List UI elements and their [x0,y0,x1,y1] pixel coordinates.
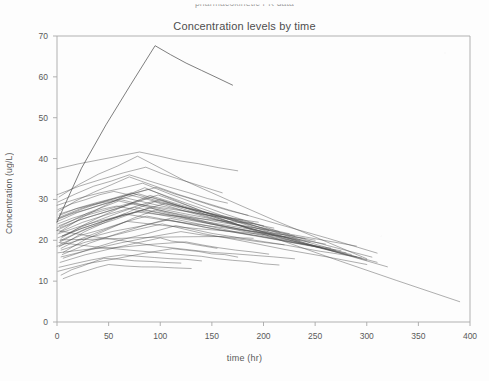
svg-text:0: 0 [55,331,60,341]
svg-text:150: 150 [205,331,219,341]
svg-text:20: 20 [39,235,49,245]
series-lines [57,46,460,302]
svg-text:250: 250 [308,331,322,341]
series-line [58,175,227,203]
svg-text:50: 50 [104,331,114,341]
svg-text:60: 60 [39,72,49,82]
svg-text:40: 40 [39,154,49,164]
svg-text:300: 300 [360,331,374,341]
spaghetti-plot: 010203040506070050100150200250300350400 [0,0,489,381]
axis-ticks [53,36,470,326]
series-line [58,208,320,247]
chart-page: pharmacokinetic PK data Concentration le… [0,0,489,381]
series-line [57,167,222,195]
tick-labels: 010203040506070050100150200250300350400 [39,31,478,341]
plot-frame [57,36,470,322]
svg-text:400: 400 [463,331,477,341]
svg-text:100: 100 [153,331,167,341]
svg-text:200: 200 [256,331,270,341]
svg-text:50: 50 [39,113,49,123]
series-line [60,204,258,228]
svg-text:70: 70 [39,31,49,41]
svg-text:0: 0 [43,317,48,327]
svg-text:350: 350 [411,331,425,341]
series-line [58,242,269,254]
series-line [63,265,191,279]
series-line [59,243,279,266]
svg-text:30: 30 [39,194,49,204]
svg-text:10: 10 [39,276,49,286]
series-line [61,258,181,275]
